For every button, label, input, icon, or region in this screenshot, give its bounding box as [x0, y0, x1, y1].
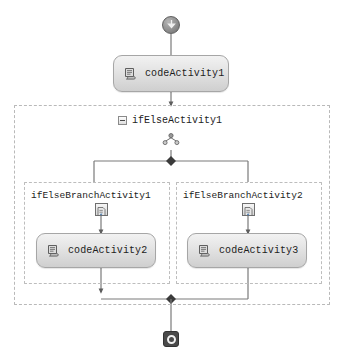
- end-node[interactable]: [163, 331, 179, 347]
- code-activity-icon: [123, 66, 138, 81]
- collapse-minus-icon[interactable]: [118, 116, 127, 125]
- stop-circle-icon: [167, 335, 176, 344]
- if-else-decision-icon[interactable]: [162, 133, 180, 147]
- activity-code-activity-3[interactable]: codeActivity3: [187, 233, 307, 268]
- down-arrow-circle-icon: [167, 20, 176, 30]
- ifelse-activity-label: ifElseActivity1: [132, 115, 222, 126]
- branch-condition-icon[interactable]: [242, 203, 255, 216]
- activity-label: codeActivity2: [68, 245, 147, 256]
- activity-code-activity-2[interactable]: codeActivity2: [36, 233, 156, 268]
- branch-label-2: ifElseBranchActivity2: [183, 190, 303, 201]
- ifelse-activity-header[interactable]: ifElseActivity1: [118, 115, 222, 126]
- activity-label: codeActivity3: [219, 245, 298, 256]
- code-activity-icon: [46, 243, 61, 258]
- branch-condition-icon[interactable]: [95, 203, 108, 216]
- start-node[interactable]: [162, 16, 180, 34]
- branch-label-1: ifElseBranchActivity1: [31, 190, 151, 201]
- code-activity-icon: [197, 243, 212, 258]
- workflow-designer-canvas[interactable]: codeActivity1 ifElseActivity1 ifElseBran…: [0, 0, 342, 363]
- activity-code-activity-1[interactable]: codeActivity1: [113, 55, 229, 92]
- activity-label: codeActivity1: [145, 68, 224, 79]
